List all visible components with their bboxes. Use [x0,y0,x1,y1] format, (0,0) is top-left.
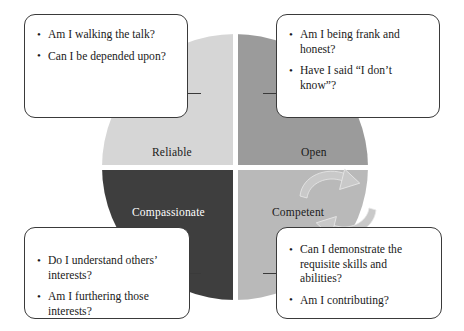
callout-box-competent[interactable]: Can I demonstrate the requisite skills a… [276,227,442,319]
list-item: Have I said “I don’t know”? [289,64,429,93]
list-item: Can I demonstrate the requisite skills a… [289,243,431,287]
question-list-open: Am I being frank and honest? Have I said… [289,28,429,93]
question-list-reliable: Am I walking the talk? Can I be depended… [37,28,177,64]
connector-line-reliable [188,93,201,94]
question-list-competent: Can I demonstrate the requisite skills a… [289,243,431,308]
callout-box-compassionate[interactable]: Do I understand others’ interests? Am I … [24,227,190,319]
list-item: Am I furthering those interests? [37,290,179,319]
list-item: Can I be depended upon? [37,50,177,65]
quadrant-label-compassionate: Compassionate [132,206,205,218]
callout-box-open[interactable]: Am I being frank and honest? Have I said… [276,14,440,118]
diagram-canvas: Reliable Open Compassionate Competent [0,0,464,331]
list-item: Am I contributing? [289,294,431,309]
list-item: Am I walking the talk? [37,28,177,43]
list-item: Do I understand others’ interests? [37,254,179,283]
connector-line-open [263,93,276,94]
quadrant-label-reliable: Reliable [152,146,192,158]
callout-box-reliable[interactable]: Am I walking the talk? Can I be depended… [24,14,188,118]
list-item: Am I being frank and honest? [289,28,429,57]
connector-line-competent [263,273,276,274]
quadrant-label-open: Open [301,146,327,158]
question-list-compassionate: Do I understand others’ interests? Am I … [37,254,179,319]
